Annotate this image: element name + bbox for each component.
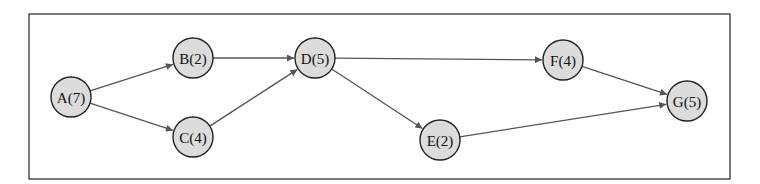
edge-a-to-b: [90, 64, 173, 91]
edge-c-to-d: [210, 69, 298, 126]
node-g: G(5): [667, 81, 707, 121]
node-b: B(2): [173, 38, 213, 78]
activity-network-diagram: A(7)B(2)C(4)D(5)E(2)F(4)G(5): [0, 0, 760, 184]
edge-f-to-g: [582, 66, 667, 94]
edge-d-to-f: [335, 58, 542, 60]
node-label: D(5): [301, 51, 329, 68]
node-label: B(2): [179, 51, 207, 68]
node-f: F(4): [543, 40, 583, 80]
edge-a-to-c: [90, 103, 173, 130]
node-a: A(7): [51, 77, 91, 117]
diagram-frame: [29, 14, 730, 179]
node-d: D(5): [295, 38, 335, 78]
nodes-group: A(7)B(2)C(4)D(5)E(2)F(4)G(5): [51, 38, 707, 160]
edge-d-to-e: [332, 69, 423, 129]
edge-e-to-g: [460, 104, 667, 137]
node-c: C(4): [173, 117, 213, 157]
node-label: C(4): [179, 130, 207, 147]
node-label: G(5): [673, 94, 701, 111]
node-e: E(2): [420, 120, 460, 160]
node-label: F(4): [550, 53, 576, 70]
node-label: E(2): [427, 133, 454, 150]
node-label: A(7): [57, 90, 85, 107]
